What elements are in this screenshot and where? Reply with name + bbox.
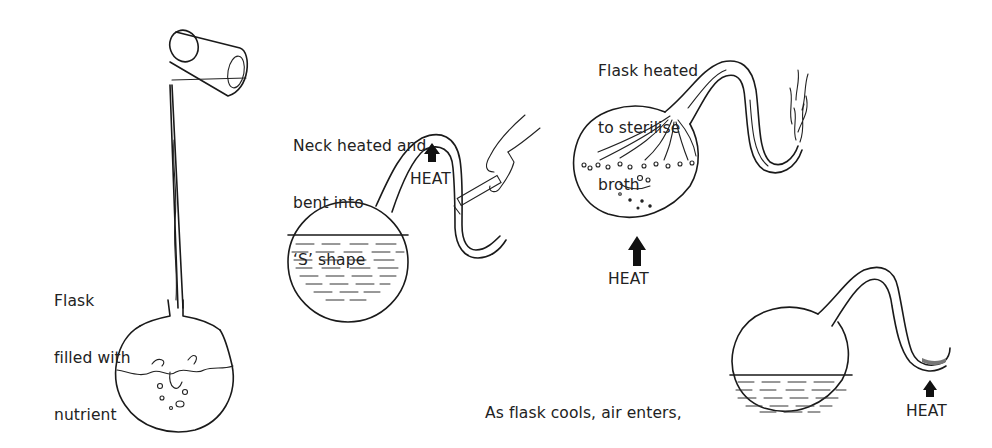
- stage-4-heat-label: HEAT: [906, 402, 947, 421]
- stage-1-label-line: Flask: [54, 292, 131, 311]
- stage-3-label: Flask heated to sterilise broth: [598, 24, 698, 214]
- stage-1-label: Flask filled with nutrient broth: [54, 254, 131, 448]
- stage-2-heat-label: HEAT: [410, 170, 451, 189]
- stage-3-flame-icon: [790, 70, 808, 142]
- stage-4-s-neck: [818, 267, 950, 370]
- stage-4-label-line: As flask cools, air enters,: [485, 404, 692, 423]
- stage-1-label-line: nutrient: [54, 406, 131, 425]
- stage-1-pouring-beaker: [165, 26, 247, 96]
- stage-3-label-line: broth: [598, 176, 698, 195]
- stage-1-label-line: filled with: [54, 349, 131, 368]
- stage-3-label-line: Flask heated: [598, 62, 698, 81]
- stage-2-label-line: Neck heated and: [293, 137, 426, 156]
- stage-2-label: Neck heated and bent into ‘S’ shape: [293, 99, 426, 289]
- stage-2-hand-with-clamp: [454, 115, 540, 214]
- stage-4-heat-arrow-icon: [923, 380, 937, 397]
- stage-2-label-line: ‘S’ shape: [293, 251, 426, 270]
- stage-3-label-line: to sterilise: [598, 119, 698, 138]
- stage-4-label: As flask cools, air enters, but any bact…: [485, 366, 692, 448]
- stage-1-broth-stream: [170, 85, 183, 308]
- stage-1-flask: [116, 300, 234, 432]
- stage-3-heat-arrow-icon: [628, 236, 646, 266]
- stage-2-label-line: bent into: [293, 194, 426, 213]
- diagram-canvas: Flask filled with nutrient broth Neck he…: [0, 0, 992, 448]
- stage-3-heat-label: HEAT: [608, 270, 649, 289]
